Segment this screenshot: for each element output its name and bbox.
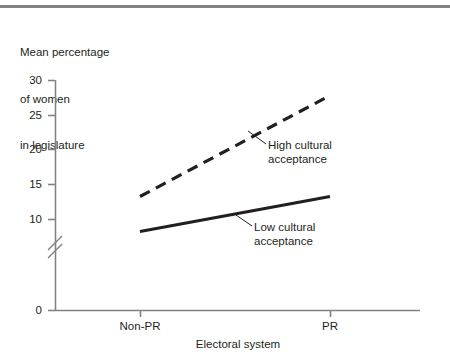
y-tick-label-20: 20 (18, 143, 42, 155)
leader-line-low-cultural-acceptance (236, 215, 252, 226)
y-tick-label-10: 10 (18, 213, 42, 225)
plot-area (0, 0, 450, 359)
series-label-low-cultural-acceptance: Low cultural acceptance (254, 220, 315, 248)
series-label-low-line-1: Low cultural (254, 220, 315, 234)
y-tick-label-25: 25 (18, 109, 42, 121)
y-tick-label-15: 15 (18, 178, 42, 190)
x-axis-title: Electoral system (158, 338, 318, 350)
x-tick-label-non-pr: Non-PR (100, 320, 180, 332)
series-label-high-cultural-acceptance: High cultural acceptance (268, 138, 332, 166)
series-label-high-line-2: acceptance (268, 152, 332, 166)
y-tick-label-0: 0 (18, 304, 42, 316)
y-tick-label-30: 30 (18, 74, 42, 86)
x-tick-label-pr: PR (290, 320, 370, 332)
chart-figure: Mean percentage of women in legislature (0, 0, 450, 359)
series-label-low-line-2: acceptance (254, 234, 315, 248)
series-label-high-line-1: High cultural (268, 138, 332, 152)
